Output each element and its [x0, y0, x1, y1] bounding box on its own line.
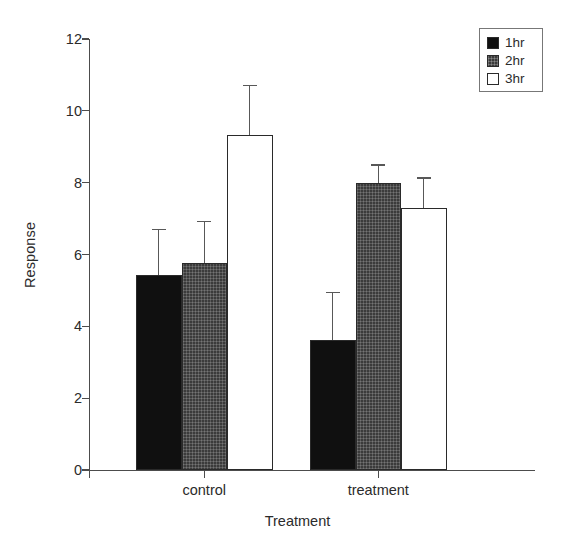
error-bar-stem-control-2hr — [204, 221, 205, 263]
error-bar-cap-treatment-2hr — [371, 164, 385, 165]
x-axis-tick — [204, 471, 205, 478]
x-axis-tick-label-treatment: treatment — [348, 483, 409, 498]
plot-area — [89, 39, 535, 470]
error-bar-cap-treatment-1hr — [326, 292, 340, 293]
y-axis-tick — [82, 398, 89, 399]
y-axis-title: Response — [22, 165, 40, 345]
legend-swatch-1hr — [487, 37, 499, 49]
legend-swatch-3hr — [487, 73, 499, 85]
error-bar-stem-control-3hr — [249, 85, 250, 135]
y-axis-tick — [82, 254, 89, 255]
x-axis-tick-label-control: control — [182, 483, 226, 498]
y-axis-line — [89, 39, 90, 470]
bar-treatment-2hr — [356, 183, 402, 470]
y-axis-tick-label: 10 — [52, 104, 82, 119]
y-axis-tick-label: 4 — [52, 319, 82, 334]
error-bar-stem-treatment-2hr — [378, 164, 379, 183]
error-bar-stem-control-1hr — [158, 229, 159, 275]
error-bar-cap-treatment-3hr — [417, 177, 431, 178]
legend: 1hr2hr3hr — [479, 28, 543, 92]
error-bar-cap-control-3hr — [243, 85, 257, 86]
y-axis-tick — [82, 110, 89, 111]
y-axis-tick-label: 12 — [52, 32, 82, 47]
y-axis-tick-labels: 024681012 — [50, 0, 82, 538]
legend-item-1hr: 1hr — [487, 34, 542, 51]
bar-control-3hr — [227, 135, 273, 470]
legend-label: 1hr — [505, 36, 525, 50]
legend-item-2hr: 2hr — [487, 52, 542, 69]
x-axis-origin-tick — [89, 471, 90, 478]
legend-swatch-2hr — [487, 55, 499, 67]
y-axis-tick — [82, 182, 89, 183]
y-axis-tick — [82, 38, 89, 39]
x-axis-title: Treatment — [0, 513, 567, 529]
y-axis-tick-label: 0 — [52, 463, 82, 478]
bar-control-2hr — [182, 263, 228, 470]
legend-label: 3hr — [505, 72, 525, 86]
y-axis-tick-label: 6 — [52, 248, 82, 263]
bar-chart-figure: Response 024681012 controltreatment Trea… — [0, 0, 567, 538]
bar-control-1hr — [136, 275, 182, 470]
error-bar-stem-treatment-1hr — [332, 292, 333, 340]
x-axis-line — [89, 470, 535, 471]
legend-label: 2hr — [505, 54, 525, 68]
legend-item-3hr: 3hr — [487, 70, 542, 87]
bar-treatment-3hr — [401, 208, 447, 470]
error-bar-cap-control-1hr — [152, 229, 166, 230]
error-bar-stem-treatment-3hr — [423, 177, 424, 208]
y-axis-tick — [82, 469, 89, 470]
y-axis-tick — [82, 326, 89, 327]
x-axis-tick — [378, 471, 379, 478]
y-axis-tick-label: 8 — [52, 176, 82, 191]
y-axis-tick-label: 2 — [52, 391, 82, 406]
error-bar-cap-control-2hr — [197, 221, 211, 222]
bar-treatment-1hr — [310, 340, 356, 470]
